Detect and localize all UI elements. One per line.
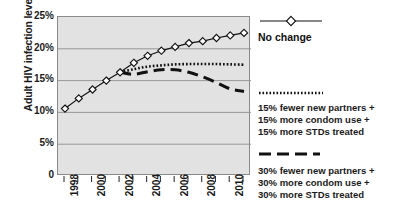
data-point-marker xyxy=(185,39,192,46)
data-point-marker xyxy=(130,59,137,66)
legend-swatch-solid-diamond-line xyxy=(258,14,413,28)
data-point-marker xyxy=(116,69,123,76)
data-point-marker xyxy=(199,38,206,45)
data-point-marker xyxy=(172,43,179,50)
legend-label-30-line2: 30% more condom use + xyxy=(258,177,413,189)
data-point-marker xyxy=(240,29,247,36)
x-tick-2008: 2008 xyxy=(206,174,217,220)
legend-swatch-dotted-line xyxy=(258,86,413,100)
data-point-marker xyxy=(227,32,234,39)
y-tick-15: 15% xyxy=(24,74,54,84)
chart-figure: Adult HIV infection levels 25% 20% 15% 1… xyxy=(0,0,413,223)
legend-entry-no-change: No change xyxy=(258,14,413,43)
data-point-marker xyxy=(213,34,220,41)
x-tick-1998: 1998 xyxy=(69,174,80,220)
legend-label-30-line1: 30% fewer new partners + xyxy=(258,165,413,177)
plot-canvas xyxy=(58,17,251,176)
legend-label-15-line1: 15% fewer new partners + xyxy=(258,102,413,114)
legend-entry-30-percent: 30% fewer new partners + 30% more condom… xyxy=(258,147,413,202)
y-tick-0: 0 xyxy=(24,170,54,180)
x-tick-2010: 2010 xyxy=(234,174,245,220)
x-tick-2000: 2000 xyxy=(96,174,107,220)
plot-area xyxy=(57,16,250,175)
data-point-marker xyxy=(89,86,96,93)
data-point-marker xyxy=(144,52,151,59)
legend-label-no-change: No change xyxy=(258,31,413,43)
x-tick-2006: 2006 xyxy=(179,174,190,220)
y-axis-tick-labels: 25% 20% 15% 10% 5% 0 xyxy=(22,0,54,223)
series-lines xyxy=(65,33,244,109)
data-point-marker xyxy=(158,47,165,54)
chart-legend: No change 15% fewer new partners + 15% m… xyxy=(258,0,413,223)
series-line xyxy=(120,64,244,72)
y-tick-10: 10% xyxy=(24,106,54,116)
legend-entry-15-percent: 15% fewer new partners + 15% more condom… xyxy=(258,86,413,139)
y-tick-20: 20% xyxy=(24,43,54,53)
legend-label-30-line3: 30% more STDs treated xyxy=(258,189,413,201)
y-tick-25: 25% xyxy=(24,11,54,21)
legend-label-15-line2: 15% more condom use + xyxy=(258,114,413,126)
y-tick-5: 5% xyxy=(24,138,54,148)
x-tick-2004: 2004 xyxy=(151,174,162,220)
x-tick-2002: 2002 xyxy=(124,174,135,220)
data-point-marker xyxy=(103,77,110,84)
legend-swatch-dashed-line xyxy=(258,147,413,161)
gridlines xyxy=(58,17,251,144)
x-axis-tick-labels: 1998200020022004200620082010 xyxy=(57,176,250,223)
legend-label-15-line3: 15% more STDs treated xyxy=(258,126,413,138)
